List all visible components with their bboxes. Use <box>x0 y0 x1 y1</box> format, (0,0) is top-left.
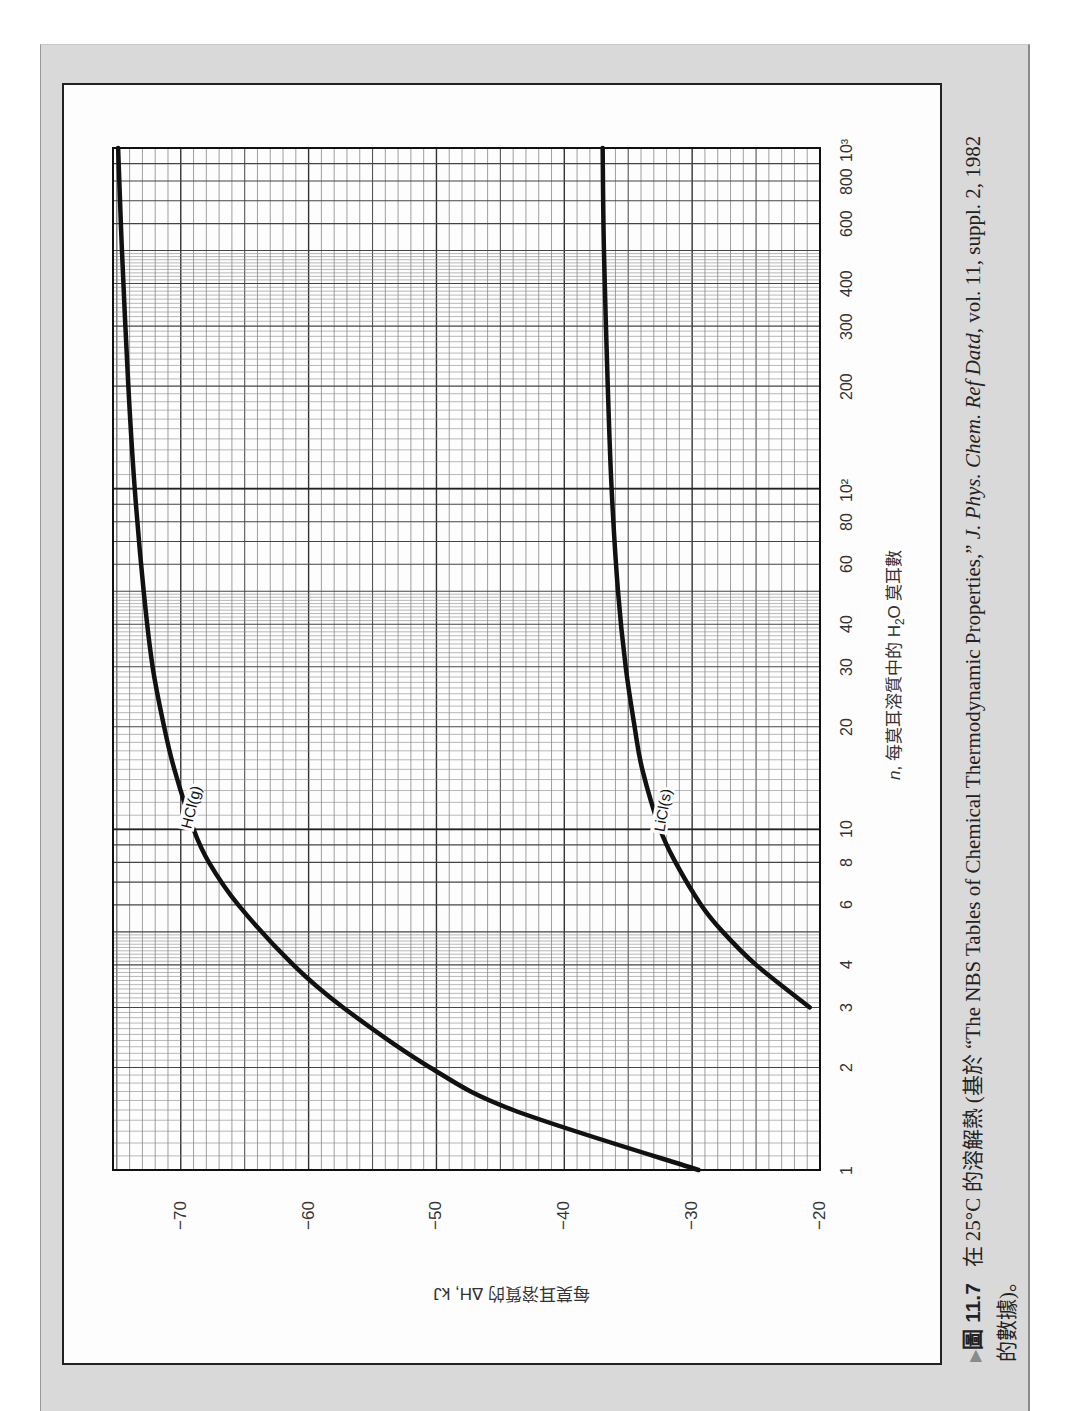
x-axis-title: n, 每莫耳溶質中的 H2O 莫耳數 <box>880 550 907 781</box>
caption-text: 在 25°C 的溶解熱 (基於 “The NBS Tables of Chemi… <box>961 539 985 1267</box>
x-axis-subscript: 2 <box>893 618 907 625</box>
figure-caption-line2: 的數據)。 <box>990 1271 1020 1362</box>
x-axis-title-end: O 莫耳數 <box>885 550 904 619</box>
x-tick-label: 60 <box>838 555 856 573</box>
figure-number: 圖 11.7 <box>961 1283 984 1350</box>
caption-journal: J. Phys. Chem. Ref Datd <box>961 333 985 539</box>
x-tick-label: 4 <box>838 960 856 969</box>
x-tick-label: 800 <box>838 168 856 195</box>
y-tick-label: −60 <box>299 1201 319 1230</box>
caption-line2-text: 的數據)。 <box>995 1271 1019 1362</box>
y-tick-label: −50 <box>426 1201 446 1230</box>
figure-caption: ▶圖 11.7 在 25°C 的溶解熱 (基於 “The NBS Tables … <box>956 136 986 1362</box>
x-tick-label: 80 <box>838 513 856 531</box>
x-tick-label: 10² <box>838 479 856 502</box>
series-line-hclg <box>118 148 698 1170</box>
y-tick-label: −20 <box>810 1201 830 1230</box>
caption-suffix: , vol. 11, suppl. 2, 1982 <box>961 136 985 334</box>
grid <box>113 148 820 1170</box>
x-tick-label: 1 <box>838 1166 856 1175</box>
y-axis-title-text: 每莫耳溶質的 ΔH, kJ <box>433 1284 590 1303</box>
x-tick-label: 40 <box>838 615 856 633</box>
x-tick-label: 8 <box>838 858 856 867</box>
x-axis-variable: n <box>885 771 904 780</box>
y-axis-title: 每莫耳溶質的 ΔH, kJ <box>433 1283 590 1308</box>
x-tick-label: 20 <box>838 718 856 736</box>
x-tick-label: 30 <box>838 658 856 676</box>
x-tick-label: 2 <box>838 1063 856 1072</box>
caption-arrow-icon: ▶ <box>965 1350 984 1362</box>
y-tick-label: −30 <box>682 1201 702 1230</box>
x-axis-title-text: , 每莫耳溶質中的 H <box>885 625 904 770</box>
x-tick-label: 400 <box>838 270 856 297</box>
x-tick-label: 600 <box>838 210 856 237</box>
x-tick-label: 10 <box>838 821 856 839</box>
x-tick-label: 3 <box>838 1003 856 1012</box>
x-tick-label: 10³ <box>838 138 856 161</box>
x-tick-label: 6 <box>838 901 856 910</box>
series-line-licls <box>603 148 810 1007</box>
y-tick-label: −40 <box>554 1201 574 1230</box>
x-tick-label: 200 <box>838 373 856 400</box>
x-tick-label: 300 <box>838 313 856 340</box>
y-tick-label: −70 <box>171 1201 191 1230</box>
